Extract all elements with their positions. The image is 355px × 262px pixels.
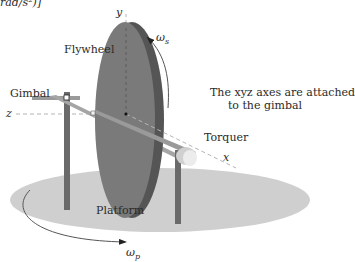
z-axis-label: z: [6, 107, 12, 120]
platform-rate-label: ωp: [126, 246, 140, 262]
omega-p-subscript: p: [135, 252, 140, 261]
x-axis-label: x: [223, 151, 229, 164]
flywheel-label: Flywheel: [64, 43, 114, 56]
omega-p-symbol: ω: [126, 246, 135, 259]
platform-disk: [10, 168, 310, 232]
note-line-2: to the gimbal: [210, 99, 320, 112]
flywheel-axle-center: [124, 112, 127, 115]
spin-rate-label: ωs: [156, 31, 169, 48]
platform-label: Platform: [96, 204, 144, 217]
gimbal-axes-note: The xyz axes are attached to the gimbal: [210, 86, 320, 112]
gimbal-label: Gimbal: [10, 87, 50, 100]
note-line-1: The xyz axes are attached: [210, 86, 320, 99]
header-fragment: rad/s²)]: [0, 0, 41, 9]
gimbal-pivot-left: [64, 95, 69, 100]
torquer-label: Torquer: [204, 131, 248, 144]
omega-s-subscript: s: [165, 37, 169, 46]
y-axis-label: y: [116, 6, 122, 19]
omega-s-symbol: ω: [156, 31, 165, 44]
left-support-post: [64, 92, 70, 210]
gimbal-pivot-front: [91, 111, 95, 115]
torquer-cap: [183, 150, 197, 166]
